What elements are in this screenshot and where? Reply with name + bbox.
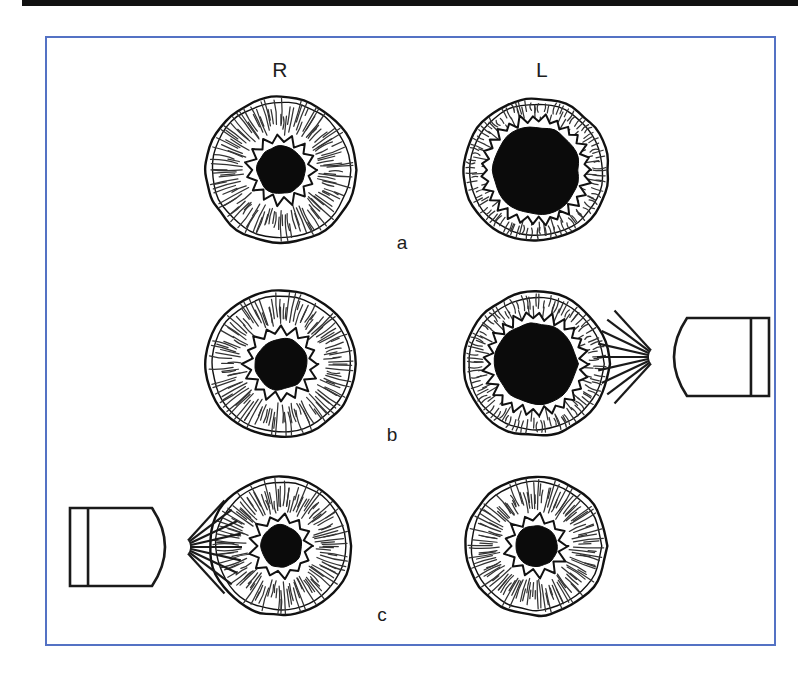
- row-label-b: b: [380, 424, 404, 446]
- top-divider-rule: [22, 0, 798, 6]
- figure-frame: [45, 36, 776, 646]
- row-label-a: a: [390, 232, 414, 254]
- column-header-right-eye: R: [260, 58, 300, 82]
- column-header-left-eye: L: [522, 58, 562, 82]
- row-label-c: c: [370, 604, 394, 626]
